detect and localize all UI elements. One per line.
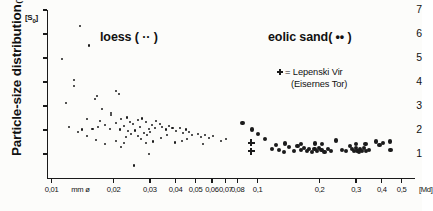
data-point [208, 137, 210, 139]
x-tick-label: 0,01 [45, 185, 59, 194]
y-tick [43, 105, 48, 106]
x-tick [149, 178, 150, 183]
data-point [292, 149, 296, 153]
x-tick-label: 0,4 [377, 185, 387, 194]
x-axis-md-label: [Md] [419, 185, 433, 194]
data-point [119, 128, 121, 130]
data-point [197, 133, 199, 135]
data-point [137, 135, 139, 137]
data-point [263, 137, 267, 141]
y-tick-label: 4 [388, 75, 422, 87]
x-tick-label: 0,5 [397, 185, 407, 194]
data-point [86, 118, 88, 120]
data-point [188, 131, 190, 133]
data-point [99, 120, 101, 122]
y-tick-label: 6 [388, 27, 422, 39]
x-tick [51, 178, 52, 183]
x-tick [401, 178, 402, 183]
data-point [120, 146, 122, 148]
data-point [202, 143, 204, 145]
data-point [354, 142, 358, 146]
data-point [274, 143, 278, 147]
data-point [175, 130, 177, 132]
data-point [168, 125, 170, 127]
x-tick-label: 0,2 [315, 185, 325, 194]
data-point [182, 132, 184, 134]
data-point [81, 128, 83, 130]
data-point [73, 79, 75, 81]
x-tick-label: 0,08 [231, 185, 245, 194]
x-tick [195, 178, 196, 183]
data-point [110, 112, 112, 114]
data-point [155, 120, 157, 122]
x-tick [175, 178, 176, 183]
data-point [186, 138, 188, 140]
data-point [329, 149, 333, 153]
data-point [171, 127, 173, 129]
data-point [129, 121, 131, 123]
plus-marker-icon [277, 69, 283, 75]
data-point [139, 126, 141, 128]
data-point [334, 138, 338, 142]
x-tick [237, 178, 238, 183]
data-point [123, 142, 125, 144]
x-tick-label: 0,03 [143, 185, 157, 194]
data-point [115, 90, 117, 92]
data-point [146, 134, 148, 136]
x-tick [355, 178, 356, 183]
data-point [220, 140, 222, 142]
data-point [123, 125, 125, 127]
y-tick-label: 3 [388, 99, 422, 111]
data-point [125, 136, 127, 138]
data-point [250, 127, 254, 131]
x-tick [113, 178, 114, 183]
data-point [174, 141, 176, 143]
x-tick-label: 0,06 [205, 185, 219, 194]
y-axis-title-main: Particle-size distribution [9, 4, 24, 156]
data-point [68, 126, 70, 128]
data-point [95, 139, 97, 141]
data-point [143, 132, 145, 134]
data-point [148, 128, 150, 130]
data-point [115, 122, 117, 124]
legend-label-lepenski-vir: = Lepenski Vir [285, 66, 343, 78]
data-point [65, 102, 67, 104]
data-point-lepenski-vir [248, 139, 255, 146]
x-tick-label: 0,05 [189, 185, 203, 194]
y-tick [43, 57, 48, 58]
data-point [367, 148, 371, 152]
y-tick [43, 81, 48, 82]
x-tick-label: 0,04 [169, 185, 183, 194]
data-point [134, 129, 136, 131]
x-tick [257, 178, 258, 183]
data-point [133, 164, 135, 166]
data-point [79, 25, 81, 27]
data-point [96, 95, 98, 97]
data-point [120, 118, 122, 120]
data-point [225, 138, 227, 140]
data-point [313, 141, 317, 145]
data-point [127, 130, 129, 132]
data-point [151, 124, 153, 126]
x-tick-label: 0,3 [351, 185, 361, 194]
y-tick-label: 2 [388, 123, 422, 135]
data-point [344, 149, 348, 153]
data-point [200, 136, 202, 138]
x-tick-label: 0,02 [107, 185, 121, 194]
data-point [388, 139, 392, 143]
legend: = Lepenski Vir (Eisernes Tor) [277, 66, 347, 90]
data-point [159, 123, 161, 125]
data-point [165, 128, 167, 130]
data-point [287, 145, 291, 149]
series-label-loess: loess ( ·· ) [100, 30, 158, 44]
data-point [320, 142, 324, 146]
data-point [299, 142, 303, 146]
data-point [204, 134, 206, 136]
data-point [381, 141, 385, 145]
data-point [181, 140, 183, 142]
data-point-lepenski-vir [248, 148, 255, 155]
data-point [86, 135, 88, 137]
data-point [110, 114, 112, 116]
data-point [149, 131, 151, 133]
